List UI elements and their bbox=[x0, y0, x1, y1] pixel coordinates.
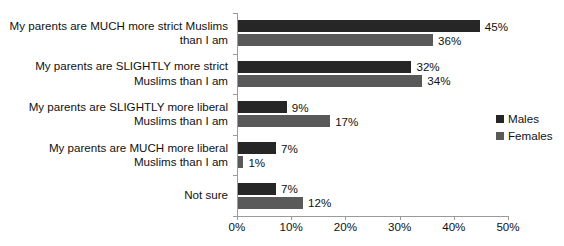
value-axis-tick-label: 0% bbox=[229, 220, 246, 233]
bar-value-label: 36% bbox=[438, 34, 461, 47]
value-axis-tick-labels: 0%10%20%30%40%50% bbox=[237, 220, 508, 238]
category-axis-tick bbox=[233, 135, 237, 136]
bar-value-label: 32% bbox=[416, 60, 439, 73]
bar-value-label: 45% bbox=[485, 20, 508, 33]
category-axis-tick bbox=[233, 175, 237, 176]
bar-group: 7%1% bbox=[238, 135, 508, 176]
bar-row: 1% bbox=[238, 156, 508, 168]
bar-value-label: 1% bbox=[248, 156, 265, 169]
bar-value-label: 7% bbox=[281, 142, 298, 155]
legend-swatch-icon bbox=[496, 115, 504, 123]
category-label-line: than I am bbox=[10, 33, 228, 48]
legend-swatch-icon bbox=[496, 132, 504, 140]
bar-group: 45%36% bbox=[238, 13, 508, 54]
category-label: My parents are SLIGHTLY more liberalMusl… bbox=[0, 94, 233, 135]
legend-label: Males bbox=[508, 112, 539, 125]
category-label-line: Muslims than I am bbox=[35, 74, 228, 89]
bar-males[interactable] bbox=[238, 101, 287, 113]
bar-value-label: 17% bbox=[335, 115, 358, 128]
bar-males[interactable] bbox=[238, 61, 411, 73]
category-axis-tick bbox=[233, 13, 237, 14]
bar-group: 9%17% bbox=[238, 94, 508, 135]
value-axis-tick-label: 50% bbox=[496, 220, 519, 233]
category-label-line: Muslims than I am bbox=[29, 114, 228, 129]
bar-row: 7% bbox=[238, 183, 508, 195]
category-axis-tick bbox=[233, 54, 237, 55]
bar-value-label: 12% bbox=[308, 196, 331, 209]
legend-item-males[interactable]: Males bbox=[496, 110, 564, 127]
bar-females[interactable] bbox=[238, 197, 303, 209]
bar-females[interactable] bbox=[238, 115, 330, 127]
bar-row: 32% bbox=[238, 61, 508, 73]
bar-females[interactable] bbox=[238, 156, 243, 168]
bar-males[interactable] bbox=[238, 183, 276, 195]
value-axis-tick-label: 30% bbox=[388, 220, 411, 233]
category-label: My parents are MUCH more liberalMuslims … bbox=[0, 135, 233, 176]
bar-value-label: 7% bbox=[281, 182, 298, 195]
bar-row: 7% bbox=[238, 142, 508, 154]
bar-row: 45% bbox=[238, 20, 508, 32]
bar-value-label: 9% bbox=[292, 101, 309, 114]
category-label: Not sure bbox=[0, 175, 233, 216]
bar-females[interactable] bbox=[238, 75, 422, 87]
bar-value-label: 34% bbox=[427, 74, 450, 87]
horizontal-bar-chart: My parents are MUCH more strict Muslimst… bbox=[0, 0, 564, 246]
bar-group: 7%12% bbox=[238, 175, 508, 216]
category-axis-labels: My parents are MUCH more strict Muslimst… bbox=[0, 13, 233, 216]
bar-row: 9% bbox=[238, 101, 508, 113]
value-axis-tick-label: 20% bbox=[334, 220, 357, 233]
legend-label: Females bbox=[508, 129, 552, 142]
plot-area: 45%36%32%34%9%17%7%1%7%12% bbox=[237, 13, 508, 216]
category-axis-line bbox=[237, 216, 509, 217]
chart-title bbox=[0, 0, 564, 4]
bar-males[interactable] bbox=[238, 20, 480, 32]
legend-item-females[interactable]: Females bbox=[496, 127, 564, 144]
category-label: My parents are SLIGHTLY more strictMusli… bbox=[0, 54, 233, 95]
category-label-line: My parents are SLIGHTLY more liberal bbox=[29, 100, 228, 115]
category-label-line: Muslims than I am bbox=[49, 155, 228, 170]
bar-group: 32%34% bbox=[238, 54, 508, 95]
bar-males[interactable] bbox=[238, 142, 276, 154]
category-axis-tick bbox=[233, 94, 237, 95]
bar-row: 12% bbox=[238, 197, 508, 209]
category-label-line: Not sure bbox=[184, 188, 228, 203]
chart-legend: MalesFemales bbox=[496, 110, 564, 144]
bar-females[interactable] bbox=[238, 34, 433, 46]
bar-row: 34% bbox=[238, 75, 508, 87]
category-label-line: My parents are SLIGHTLY more strict bbox=[35, 59, 228, 74]
value-axis-tick-label: 10% bbox=[280, 220, 303, 233]
category-label-line: My parents are MUCH more liberal bbox=[49, 141, 228, 156]
bar-row: 17% bbox=[238, 115, 508, 127]
category-label-line: My parents are MUCH more strict Muslims bbox=[10, 19, 228, 34]
category-label: My parents are MUCH more strict Muslimst… bbox=[0, 13, 233, 54]
bar-row: 36% bbox=[238, 34, 508, 46]
value-axis-tick-label: 40% bbox=[442, 220, 465, 233]
